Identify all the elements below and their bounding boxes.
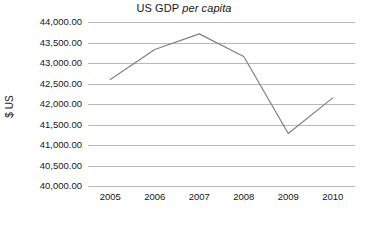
chart-container: US GDP per capita $ US 44,000.0043,500.0…: [0, 0, 368, 233]
series-line-us-gdp-per-capita: [110, 34, 333, 134]
y-axis-tick-label: 43,000.00: [10, 58, 82, 68]
x-axis-tick-label: 2005: [87, 191, 133, 203]
y-axis-tick-label: 40,500.00: [10, 161, 82, 171]
chart-title-main: US GDP: [136, 2, 179, 14]
y-axis-tick-label: 43,500.00: [10, 38, 82, 48]
chart-title: US GDP per capita: [0, 2, 368, 14]
y-axis-tick-labels: 44,000.0043,500.0043,000.0042,500.0042,0…: [10, 22, 82, 186]
x-axis-tick-label: 2010: [310, 191, 356, 203]
x-axis-tick-label: 2007: [176, 191, 222, 203]
y-axis-tick-label: 42,500.00: [10, 79, 82, 89]
plot-area: [88, 22, 355, 186]
gridline: [88, 186, 355, 187]
x-axis-tick-label: 2006: [132, 191, 178, 203]
x-axis-tick-label: 2009: [265, 191, 311, 203]
y-axis-tick-label: 42,000.00: [10, 99, 82, 109]
y-axis-tick-label: 40,000.00: [10, 181, 82, 191]
chart-title-emphasis: per capita: [182, 2, 231, 14]
series-line-chart: [88, 22, 355, 186]
x-axis-tick-label: 2008: [221, 191, 267, 203]
x-axis-tick-labels: 200520062007200820092010: [88, 191, 355, 205]
y-axis-tick-label: 41,000.00: [10, 140, 82, 150]
y-axis-tick-label: 41,500.00: [10, 120, 82, 130]
y-axis-tick-label: 44,000.00: [10, 17, 82, 27]
